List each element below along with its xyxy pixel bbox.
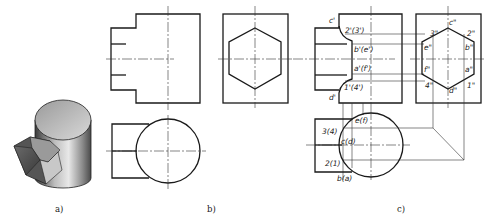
label-b-e-prime: b'(e'): [354, 45, 373, 54]
label-2-3-prime: 2'(3'): [345, 26, 365, 35]
label-4-dprime: 4": [425, 81, 433, 90]
panel-b-orthographic: b): [106, 6, 293, 214]
label-d-dprime: d": [449, 86, 457, 95]
caption-a: a): [55, 204, 63, 214]
label-a-f-prime: a'(f'): [354, 64, 371, 73]
label-a-dprime: a": [465, 65, 473, 74]
panel-c-intersection: c' 2'(3') b'(e') a'(f') 1'(4') d' 3" c" …: [293, 6, 486, 214]
caption-c: c): [397, 204, 405, 214]
label-1-4-prime: 1'(4'): [344, 83, 364, 92]
label-b-a: b(a): [337, 174, 352, 183]
label-c-dprime: c": [449, 18, 457, 27]
label-e-dprime: e": [424, 43, 432, 52]
caption-b: b): [207, 204, 216, 214]
label-c-d: c(d): [341, 137, 356, 146]
label-d-prime: d': [329, 93, 336, 102]
drawing-canvas: a) b): [0, 0, 489, 224]
panel-a-isometric: a): [14, 100, 91, 214]
label-3-dprime: 3": [430, 29, 438, 38]
label-c-prime: c': [329, 16, 335, 25]
label-b-dprime: b": [465, 43, 473, 52]
label-e-f: e(f): [355, 116, 368, 125]
label-2-1: 2(1): [325, 159, 340, 168]
label-f-dprime: f": [424, 65, 430, 74]
label-3-4: 3(4): [322, 127, 337, 136]
label-2-dprime: 2": [467, 29, 475, 38]
label-1-dprime: 1": [467, 81, 475, 90]
